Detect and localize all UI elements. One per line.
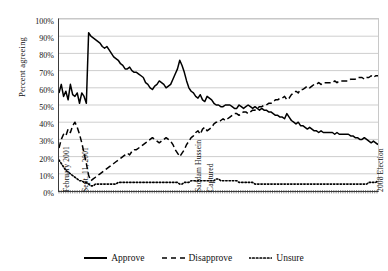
chart-legend: ApproveDisapproveUnsure [0,248,388,268]
legend-label: Unsure [276,253,303,263]
legend-item-unsure: Unsure [249,253,303,263]
legend-label: Approve [111,253,144,263]
y-tick-label: 90% [20,35,54,43]
legend-item-approve: Approve [84,253,144,263]
series-line-approve [59,33,378,145]
x-event-label: Saddam Hussein [195,140,203,192]
x-event-label: Sept. 11, 2001 [82,147,90,192]
x-event-label: 2008 Election [377,148,385,192]
y-tick-label: 20% [20,156,54,164]
y-tick-label: 10% [20,173,54,181]
legend-swatch-dotted [249,255,272,261]
series-line-disapprove [59,76,378,181]
y-tick-label: 100% [20,18,54,26]
legend-swatch-dashed [162,255,185,261]
y-tick-label: 30% [20,138,54,146]
plot-area [58,18,379,192]
y-tick-label: 80% [20,52,54,60]
y-tick-label: 70% [20,70,54,78]
x-axis-event-labels: February 2001Sept. 11, 2001Saddam Hussei… [0,190,388,252]
y-tick-label: 40% [20,121,54,129]
series-canvas [59,19,378,191]
series-line-unsure [59,160,378,186]
y-tick-label: 50% [20,104,54,112]
y-axis-tick-labels: 0%10%20%30%40%50%60%70%80%90%100% [20,12,54,196]
legend-label: Disapprove [189,253,233,263]
y-tick-label: 60% [20,87,54,95]
legend-item-disapprove: Disapprove [162,253,233,263]
x-event-label: February 2001 [63,146,71,192]
approval-rating-chart: Percent agreeing 0%10%20%30%40%50%60%70%… [0,0,388,271]
x-event-label: Captured [207,163,215,192]
legend-swatch-solid [84,255,107,261]
